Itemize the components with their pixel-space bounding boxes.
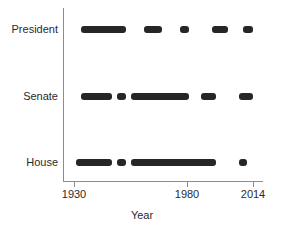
x-axis-title: Year: [0, 209, 284, 221]
data-segment: [212, 26, 228, 33]
data-segment: [144, 26, 162, 33]
data-segment: [81, 93, 113, 100]
series-row-president: [63, 26, 263, 33]
data-segment: [76, 159, 112, 166]
x-tick-mark: [74, 182, 75, 187]
x-tick-label: 1980: [175, 188, 199, 200]
data-segment: [239, 159, 247, 166]
data-segment: [201, 93, 217, 100]
category-label-house: House: [0, 156, 58, 168]
x-tick-mark: [253, 182, 254, 187]
strip-plot-chart: 193019802014 PresidentSenateHouse Year: [0, 0, 284, 231]
category-label-president: President: [0, 23, 58, 35]
data-segment: [243, 26, 253, 33]
data-segment: [180, 26, 189, 33]
plot-area: [63, 8, 263, 181]
series-row-senate: [63, 93, 263, 100]
data-segment: [81, 26, 126, 33]
data-segment: [117, 93, 126, 100]
category-label-senate: Senate: [0, 90, 58, 102]
x-tick-label: 2014: [241, 188, 265, 200]
series-row-house: [63, 159, 263, 166]
x-tick-mark: [187, 182, 188, 187]
x-axis-line: [63, 181, 263, 182]
data-segment: [131, 159, 217, 166]
data-segment: [131, 93, 189, 100]
data-segment: [117, 159, 126, 166]
data-segment: [239, 93, 253, 100]
x-tick-label: 1930: [62, 188, 86, 200]
